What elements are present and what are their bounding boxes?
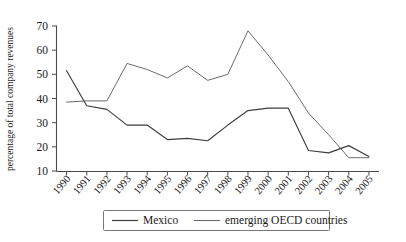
x-axis-labels: 1990199119921993199419951996199719981999…	[51, 173, 375, 197]
x-tick-label-1996: 1996	[172, 173, 194, 196]
line-chart: percentage of total company revenues 70 …	[0, 0, 406, 242]
x-tick-label-1991: 1991	[71, 173, 93, 196]
x-tick-label-1993: 1993	[111, 173, 133, 196]
y-tick-label-40: 40	[37, 93, 49, 105]
x-tick-label-1999: 1999	[232, 173, 254, 196]
series-line-mexico	[67, 71, 369, 157]
x-tick-label-2003: 2003	[313, 173, 335, 196]
x-tick-label-1992: 1992	[91, 173, 113, 196]
x-tick-label-1997: 1997	[192, 173, 214, 196]
y-tick-label-20: 20	[37, 141, 49, 153]
y-tick-label-50: 50	[37, 68, 49, 80]
y-tick-label-10: 10	[37, 165, 49, 177]
x-tick-label-2004: 2004	[333, 173, 355, 197]
x-tick-label-1995: 1995	[151, 173, 173, 196]
y-axis-title: percentage of total company revenues	[5, 27, 15, 171]
x-tick-label-2000: 2000	[252, 173, 274, 196]
x-tick-label-2001: 2001	[272, 173, 294, 196]
y-tick-label-30: 30	[37, 117, 49, 129]
x-tick-label-1990: 1990	[51, 173, 73, 196]
y-axis-ticks: 70 60 50 40 30 20 10	[37, 20, 57, 177]
chart-svg: percentage of total company revenues 70 …	[0, 0, 406, 242]
x-tick-label-2005: 2005	[353, 173, 375, 196]
legend-label-emerging-oecd-countries: emerging OECD countries	[225, 214, 348, 227]
y-tick-label-70: 70	[37, 20, 49, 32]
x-tick-label-2002: 2002	[293, 173, 315, 196]
chart-legend: Mexico emerging OECD countries	[104, 211, 348, 231]
legend-label-mexico: Mexico	[143, 214, 178, 226]
series-line-emerging-oecd-countries	[67, 31, 369, 158]
y-tick-label-60: 60	[37, 44, 49, 56]
x-tick-label-1994: 1994	[131, 173, 153, 197]
x-tick-label-1998: 1998	[212, 173, 234, 196]
